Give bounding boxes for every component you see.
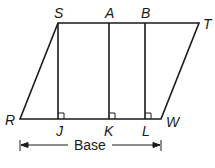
label-L: L	[142, 123, 150, 139]
right-angle-mark-J	[58, 113, 64, 119]
label-R: R	[5, 112, 15, 128]
base-label: Base	[74, 137, 106, 153]
parallelogram-diagram: S A B T R W J K L Base	[0, 0, 215, 168]
label-W: W	[166, 114, 181, 130]
label-J: J	[55, 123, 64, 139]
label-A: A	[104, 5, 114, 21]
label-T: T	[203, 16, 213, 32]
right-angle-mark-L	[145, 113, 151, 119]
label-S: S	[54, 5, 64, 21]
right-angle-mark-K	[109, 113, 115, 119]
label-B: B	[141, 5, 150, 21]
